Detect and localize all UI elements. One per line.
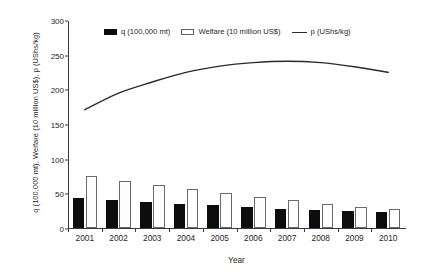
x-tick-label: 2008 — [312, 233, 330, 243]
x-tick-label: 2009 — [345, 233, 363, 243]
x-tick-label: 2006 — [244, 233, 262, 243]
x-tick-label: 2002 — [109, 233, 127, 243]
legend-swatch-q-icon — [104, 29, 117, 35]
legend-item-q: q (100,000 mt) — [104, 27, 170, 36]
y-axis-title: q (100,000 mt), Welfare (10 million US$)… — [31, 8, 40, 238]
legend-label-p: p (UShs/kg) — [311, 27, 351, 36]
x-tick-label: 2005 — [210, 233, 228, 243]
plot-area: 050100150200250300 200120022003200420052… — [68, 21, 405, 229]
x-tick-mark — [304, 229, 305, 232]
x-tick-mark — [102, 229, 103, 232]
chart-legend: q (100,000 mt) Welfare (10 million US$) … — [104, 27, 351, 36]
x-tick-label: 2003 — [143, 233, 161, 243]
x-tick-label: 2007 — [278, 233, 296, 243]
chart-container: q (100,000 mt), Welfare (10 million US$)… — [0, 0, 429, 277]
x-tick-mark — [338, 229, 339, 232]
x-tick-mark — [270, 229, 271, 232]
x-tick-mark — [68, 229, 69, 232]
legend-label-q: q (100,000 mt) — [121, 27, 170, 36]
x-tick-label: 2001 — [76, 233, 94, 243]
legend-item-welfare: Welfare (10 million US$) — [181, 27, 280, 36]
x-tick-mark — [169, 229, 170, 232]
x-tick-mark — [237, 229, 238, 232]
x-tick-mark — [135, 229, 136, 232]
x-tick-label: 2010 — [379, 233, 397, 243]
x-tick-label: 2004 — [177, 233, 195, 243]
p-line-series — [68, 21, 405, 229]
p-line-path — [85, 61, 388, 110]
legend-swatch-welfare-icon — [181, 29, 194, 35]
x-tick-mark — [203, 229, 204, 232]
x-axis-title: Year — [68, 255, 405, 265]
legend-label-welfare: Welfare (10 million US$) — [198, 27, 280, 36]
legend-item-p: p (UShs/kg) — [292, 27, 351, 36]
legend-swatch-p-line-icon — [292, 29, 307, 35]
x-tick-mark — [371, 229, 372, 232]
